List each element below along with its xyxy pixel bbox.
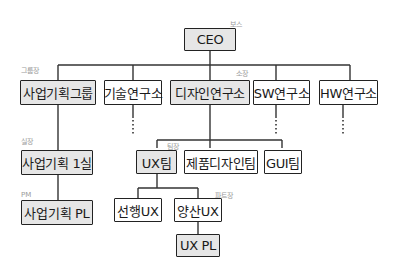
- org-chart: 보스 CEO 그룹장 사업기획그룹 기술연구소 소장 디자인연구소 SW연구소 …: [0, 0, 395, 279]
- node-ux-team: UX팀: [136, 150, 177, 174]
- node-biz-planning-office-1: 사업기획 1실: [21, 150, 93, 175]
- node-design-lab: 디자인연구소: [170, 80, 250, 105]
- node-biz-planning-pl: 사업기획 PL: [21, 200, 93, 225]
- node-mass-production-ux: 양산UX: [174, 198, 222, 222]
- node-advanced-ux: 선행UX: [114, 198, 162, 222]
- node-tech-lab: 기술연구소: [104, 80, 162, 105]
- role-label-office-head: 실장: [21, 136, 33, 146]
- node-sw-lab: SW연구소: [253, 80, 310, 105]
- node-gui-team: GUI팀: [264, 150, 302, 174]
- role-label-director: 소장: [236, 68, 248, 78]
- node-biz-planning-group: 사업기획그룹: [20, 80, 96, 105]
- node-product-design-team: 제품디자인팀: [184, 150, 258, 174]
- role-label-pm: PM: [21, 191, 31, 199]
- node-hw-lab: HW연구소: [319, 80, 378, 105]
- node-ux-pl: UX PL: [176, 234, 220, 257]
- role-label-group-head: 그룹장: [21, 65, 39, 75]
- node-ceo: CEO: [184, 28, 236, 51]
